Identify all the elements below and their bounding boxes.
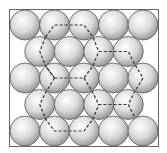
diagram-canvas	[0, 0, 167, 153]
sphere	[99, 63, 129, 93]
sphere	[10, 116, 40, 146]
sphere	[99, 10, 129, 40]
sphere	[113, 90, 143, 120]
sphere	[128, 116, 158, 146]
sphere	[10, 10, 40, 40]
sphere	[99, 116, 129, 146]
sphere	[54, 37, 84, 67]
sphere	[10, 63, 40, 93]
sphere	[69, 10, 99, 40]
close-packing-diagram	[0, 0, 167, 153]
sphere	[54, 90, 84, 120]
sphere	[113, 37, 143, 67]
sphere	[128, 63, 158, 93]
sphere	[128, 10, 158, 40]
